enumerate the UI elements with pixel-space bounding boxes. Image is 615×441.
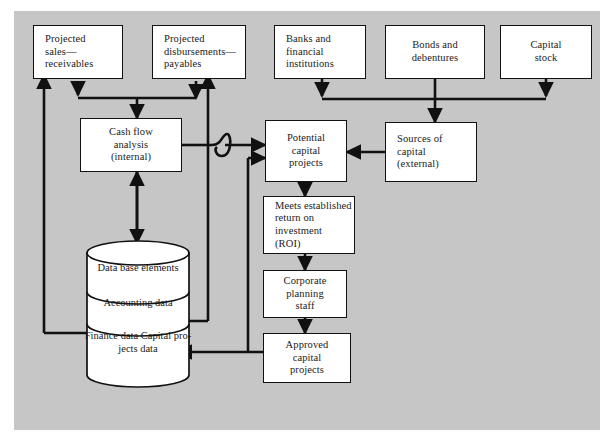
node-line: projects — [264, 364, 350, 377]
node-line: Cash flow — [81, 126, 181, 139]
node-line: (ROI) — [275, 238, 354, 251]
diagram-page: Projected sales— receivables Projected d… — [0, 0, 615, 441]
node-line: receivables — [45, 58, 122, 71]
node-line: staff — [264, 300, 346, 313]
node-line: Bonds and — [386, 39, 484, 52]
database-cylinder-shape — [84, 240, 192, 388]
node-banks-financial-institutions[interactable]: Banks and financial institutions — [274, 25, 366, 79]
node-approved-capital-projects[interactable]: Approved capital projects — [263, 333, 351, 383]
node-line: projects — [266, 157, 346, 170]
node-line: institutions — [286, 58, 365, 71]
node-line: (internal) — [81, 151, 181, 164]
node-line: Approved — [264, 339, 350, 352]
node-line: Capital — [501, 39, 591, 52]
node-potential-capital-projects[interactable]: Potential capital projects — [265, 120, 347, 182]
node-line: disbursements— — [164, 46, 245, 59]
node-meets-roi[interactable]: Meets established return on investment (… — [263, 196, 355, 254]
node-line: capital — [397, 146, 476, 159]
node-corporate-planning-staff[interactable]: Corporate planning staff — [263, 270, 347, 318]
node-line: financial — [286, 46, 365, 59]
node-capital-stock[interactable]: Capital stock — [500, 25, 592, 79]
node-line: Banks and — [286, 33, 365, 46]
node-line: planning — [264, 288, 346, 301]
node-line: payables — [164, 58, 245, 71]
node-line: Potential — [266, 132, 346, 145]
node-line: investment — [275, 225, 354, 238]
node-projected-disbursements[interactable]: Projected disbursements— payables — [152, 25, 246, 79]
node-line: return on — [275, 212, 354, 225]
node-sources-of-capital[interactable]: Sources of capital (external) — [385, 122, 477, 182]
node-cash-flow-analysis[interactable]: Cash flow analysis (internal) — [80, 118, 182, 172]
node-line: Sources of — [397, 133, 476, 146]
node-line: sales— — [45, 46, 122, 59]
node-line: stock — [501, 52, 591, 65]
node-projected-sales[interactable]: Projected sales— receivables — [33, 25, 123, 79]
node-line: Corporate — [264, 275, 346, 288]
node-line: capital — [264, 352, 350, 365]
node-line: Meets established — [275, 200, 354, 213]
node-line: analysis — [81, 139, 181, 152]
database-cylinder[interactable]: Data base elements Accounting data Finan… — [84, 240, 192, 388]
node-line: Projected — [164, 33, 245, 46]
node-line: (external) — [397, 158, 476, 171]
node-line: capital — [266, 145, 346, 158]
node-line: debentures — [386, 52, 484, 65]
node-line: Projected — [45, 33, 122, 46]
node-bonds-debentures[interactable]: Bonds and debentures — [385, 25, 485, 79]
